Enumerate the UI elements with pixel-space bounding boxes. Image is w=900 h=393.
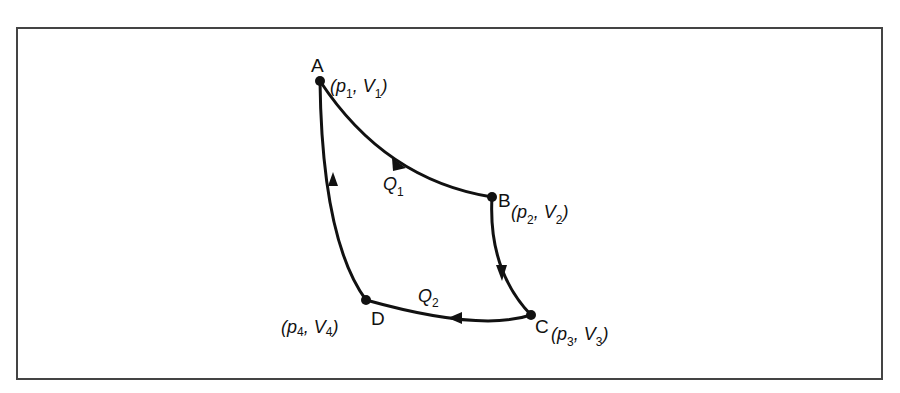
label-b: B <box>498 190 511 211</box>
coords-a: (p1, V1) <box>330 76 387 101</box>
point-a-icon <box>315 76 325 86</box>
coords-b: (p2, V2) <box>511 202 568 227</box>
path-c-d <box>366 300 531 321</box>
heat-q1: Q1 <box>383 174 404 199</box>
cycle-diagram: A B C D (p1, V1) (p2, V2) (p3, V3) (p4, … <box>0 0 900 393</box>
label-d: D <box>371 308 385 329</box>
label-a: A <box>311 55 324 76</box>
heat-q2: Q2 <box>418 286 439 310</box>
coords-d: (p4, V4) <box>281 317 338 339</box>
point-b-icon <box>487 192 497 202</box>
arrow-d-a-icon <box>328 172 338 186</box>
arrow-c-d-icon <box>448 312 462 324</box>
coords-c: (p3, V3) <box>551 324 608 349</box>
point-d-icon <box>361 295 371 305</box>
label-c: C <box>535 316 549 337</box>
